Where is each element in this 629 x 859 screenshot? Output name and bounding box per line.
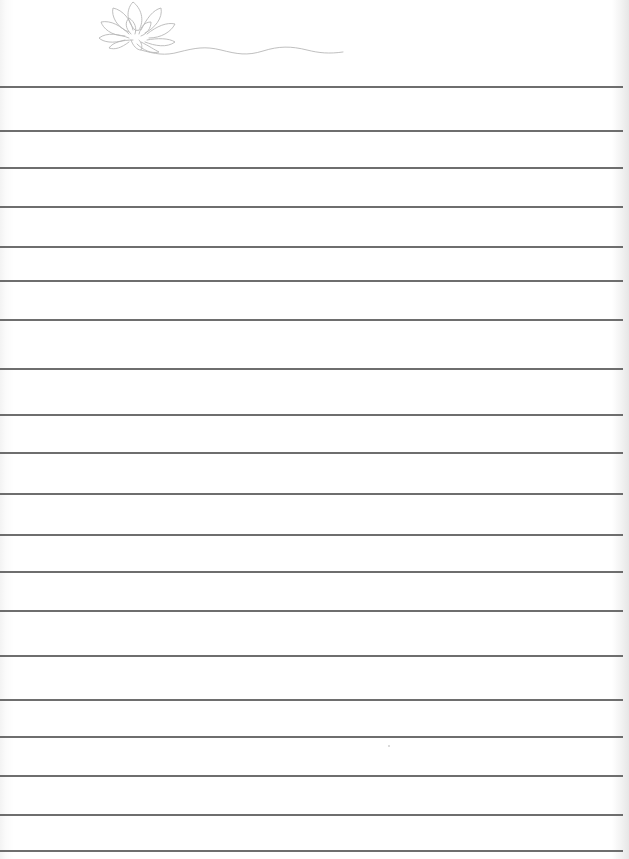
ruled-line	[0, 414, 623, 416]
ruled-line	[0, 736, 623, 738]
lotus-flower-icon	[95, 0, 345, 60]
ruled-line	[0, 571, 623, 573]
ruled-line	[0, 814, 623, 816]
ruled-line	[0, 610, 623, 612]
ruled-line	[0, 86, 623, 88]
notepaper-page	[0, 0, 629, 859]
ruled-line	[0, 130, 623, 132]
ruled-line	[0, 699, 623, 701]
ruled-line	[0, 493, 623, 495]
ruled-line	[0, 655, 623, 657]
ruled-line	[0, 246, 623, 248]
ruled-line	[0, 452, 623, 454]
ruled-line	[0, 850, 623, 852]
ruled-line	[0, 319, 623, 321]
paper-speck	[388, 745, 390, 747]
ruled-line	[0, 775, 623, 777]
ruled-line	[0, 534, 623, 536]
ruled-line	[0, 280, 623, 282]
ruled-line	[0, 206, 623, 208]
ruled-line	[0, 368, 623, 370]
ruled-line	[0, 167, 623, 169]
